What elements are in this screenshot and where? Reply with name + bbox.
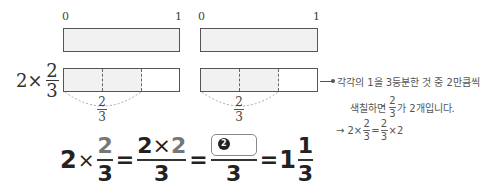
denominator: 3 — [226, 163, 241, 185]
eq-equals-2: = — [189, 147, 207, 172]
result-whole: 1 — [279, 146, 296, 174]
line3-fraction-2: 2 3 — [381, 119, 388, 142]
tick-0-left: 0 — [62, 10, 69, 23]
explanation-line-1: 각각의 1을 3등분한 것 중 2만큼씩 — [337, 74, 480, 89]
line3-a: 2× — [347, 125, 362, 136]
denominator: 3 — [154, 163, 169, 185]
whole-bar-left — [63, 28, 180, 52]
eq-fraction-1: 2 3 — [97, 135, 112, 185]
eq-times: × — [78, 148, 95, 172]
expr-numerator: 2 — [46, 62, 57, 79]
line2-fraction: 2 3 — [389, 96, 396, 119]
eq-equals-3: = — [260, 147, 278, 172]
bar-fraction-right: 2 3 — [234, 96, 244, 123]
denominator: 3 — [363, 132, 369, 142]
numerator: 2 — [381, 119, 387, 129]
arrow-icon: → — [336, 125, 344, 136]
expression-label: 2 × 2 3 — [16, 62, 59, 99]
explanation-line-2: 색칠하면 2 3 가 2개입니다. — [350, 96, 455, 119]
partition-bar-left — [63, 68, 180, 92]
whole-bar-right — [200, 28, 318, 52]
answer-blank[interactable]: 2 — [211, 134, 257, 156]
expr-fraction: 2 3 — [46, 62, 59, 99]
numerator: 2 — [235, 96, 243, 108]
line3-equals: = — [371, 125, 379, 136]
numerator: 2×2 — [137, 135, 186, 157]
num-b: 2 — [171, 133, 186, 158]
tick-0-right: 0 — [198, 10, 205, 23]
numerator: 2 — [363, 119, 369, 129]
line3-b: ×2 — [389, 125, 404, 136]
divider-dashed — [278, 69, 279, 91]
denominator: 3 — [235, 111, 243, 123]
expr-denominator: 3 — [46, 82, 57, 99]
tick-1-right: 1 — [313, 10, 320, 23]
num-a: 2 — [137, 133, 152, 158]
numerator: 2 — [389, 96, 395, 106]
divider-dashed — [102, 69, 103, 91]
result-fraction: 1 3 — [298, 135, 313, 185]
main-equation: 2 × 2 3 = 2×2 3 = 2 3 = 1 1 3 — [60, 134, 315, 185]
divider-dashed — [141, 69, 142, 91]
denominator: 3 — [389, 109, 395, 119]
eq-equals-1: = — [116, 147, 134, 172]
expr-times: × — [27, 70, 42, 91]
line2-suffix: 가 2개입니다. — [397, 100, 455, 115]
denominator: 3 — [381, 132, 387, 142]
bar-fraction-left: 2 3 — [97, 96, 107, 123]
partition-bar-right — [200, 68, 318, 92]
eq-whole: 2 — [60, 146, 77, 174]
denominator: 3 — [97, 163, 112, 185]
denominator: 3 — [298, 163, 313, 185]
explanation-line-3: → 2× 2 3 = 2 3 ×2 — [336, 119, 403, 142]
tick-1-left: 1 — [175, 10, 182, 23]
denominator: 3 — [98, 111, 106, 123]
arrow-head-icon — [331, 79, 335, 83]
eq-fraction-3: 2 3 — [211, 134, 257, 185]
answer-badge-icon: 2 — [218, 138, 230, 150]
line2-prefix: 색칠하면 — [350, 100, 386, 115]
line3-fraction-1: 2 3 — [363, 119, 370, 142]
numerator: 2 — [97, 135, 112, 157]
expr-whole: 2 — [16, 70, 27, 91]
divider-dashed — [239, 69, 240, 91]
eq-fraction-2: 2×2 3 — [137, 135, 186, 185]
numerator: 1 — [298, 135, 313, 157]
num-times: × — [153, 133, 171, 158]
numerator: 2 — [98, 96, 106, 108]
